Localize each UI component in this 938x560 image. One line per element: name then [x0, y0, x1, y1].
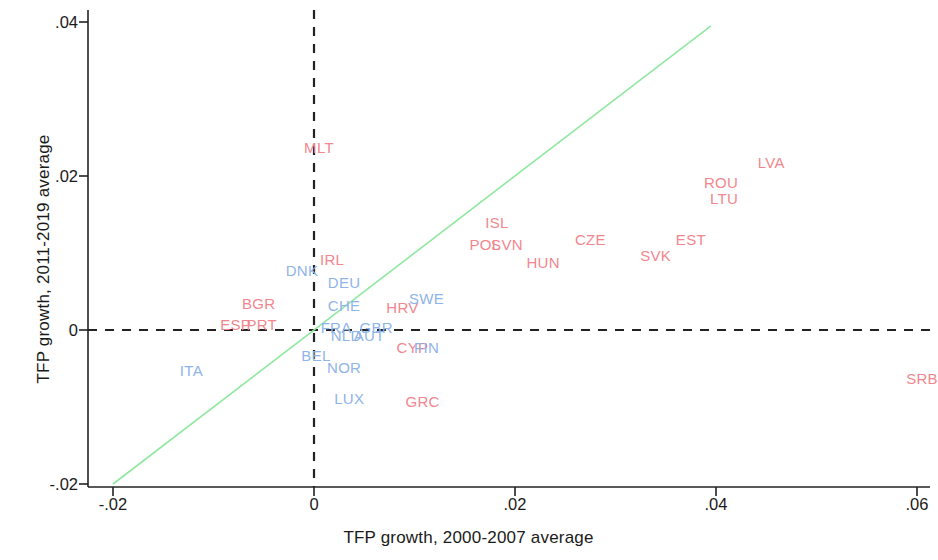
- point-label-mlt: MLT: [304, 138, 334, 155]
- point-label-fin: FIN: [414, 338, 439, 355]
- x-tick-label-1: 0: [309, 495, 318, 514]
- x-axis-title: TFP growth, 2000-2007 average: [0, 528, 937, 548]
- point-label-irl: IRL: [320, 251, 344, 268]
- point-label-ltu: LTU: [710, 189, 738, 206]
- tick-marks: [79, 22, 917, 496]
- point-label-hun: HUN: [526, 254, 559, 271]
- point-label-ita: ITA: [180, 362, 203, 379]
- x-tick-label-4: .06: [906, 495, 929, 514]
- point-label-isl: ISL: [485, 214, 508, 231]
- point-label-dnk: DNK: [286, 261, 319, 278]
- point-label-che: CHE: [328, 297, 361, 314]
- point-label-aut: AUT: [354, 326, 385, 343]
- x-tick-label-3: .04: [705, 495, 728, 514]
- point-label-prt: PRT: [246, 315, 277, 332]
- point-label-nor: NOR: [327, 358, 361, 375]
- point-label-svk: SVK: [640, 246, 671, 263]
- point-label-svn: SVN: [491, 235, 523, 252]
- point-label-grc: GRC: [405, 392, 439, 409]
- x-tick-label-2: .02: [504, 495, 527, 514]
- reference-line-forty-five-degree: [113, 26, 711, 484]
- point-label-swe: SWE: [409, 289, 444, 306]
- point-label-est: EST: [676, 231, 706, 248]
- y-axis-title: TFP growth, 2011-2019 average: [34, 9, 54, 509]
- x-tick-label-0: -.02: [99, 495, 127, 514]
- point-label-lva: LVA: [758, 154, 785, 171]
- point-label-srb: SRB: [906, 369, 938, 386]
- point-label-bgr: BGR: [242, 295, 275, 312]
- point-label-deu: DEU: [328, 274, 361, 291]
- point-label-lux: LUX: [334, 389, 364, 406]
- point-label-cze: CZE: [575, 231, 606, 248]
